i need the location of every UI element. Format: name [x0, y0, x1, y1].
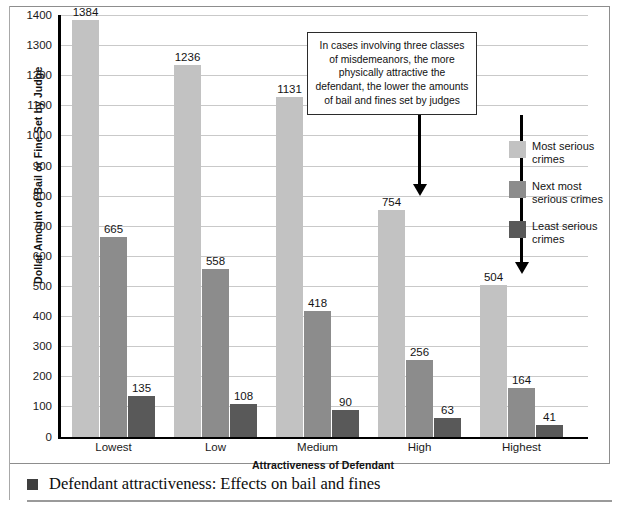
y-axis-tick-label: 700: [33, 220, 52, 232]
legend-label: Next most serious crimes: [532, 180, 605, 207]
gridline: [58, 135, 588, 136]
bar-value-label: 256: [410, 346, 429, 358]
bar: 1384: [72, 20, 99, 437]
y-axis-tick-label: 500: [33, 280, 52, 292]
bar-value-label: 90: [339, 396, 352, 408]
bar: 418: [304, 311, 331, 437]
bar: 1131: [276, 97, 303, 438]
y-axis-tick-label: 1200: [26, 69, 52, 81]
legend-swatch: [509, 141, 526, 158]
y-axis-tick-label: 200: [33, 370, 52, 382]
legend-item: Next most serious crimes: [509, 180, 605, 207]
x-axis-category-label: Medium: [297, 441, 338, 453]
bar: 1236: [174, 65, 201, 437]
y-axis-tick-label: 600: [33, 250, 52, 262]
bar-value-label: 1131: [277, 83, 302, 95]
bar: 665: [100, 237, 127, 437]
bar: 754: [378, 210, 405, 437]
bar-value-label: 665: [104, 223, 123, 235]
legend-swatch: [509, 221, 526, 238]
bar-value-label: 504: [484, 271, 503, 283]
annotation-arrow: [411, 115, 429, 196]
figure-container: Dollar Amount of Bail or Fine Set by Jud…: [0, 0, 621, 513]
chart-legend: Most serious crimesNext most serious cri…: [509, 140, 605, 259]
bar-value-label: 135: [132, 382, 151, 394]
x-axis-category-label: Lowest: [95, 441, 131, 453]
y-axis-tick-label: 100: [33, 400, 52, 412]
arrow-head: [515, 262, 529, 274]
x-axis-category-label: High: [408, 441, 432, 453]
arrow-shaft: [418, 115, 421, 185]
bar: 90: [332, 410, 359, 437]
annotation-callout-box: In cases involving three classes of misd…: [307, 32, 477, 115]
y-axis-line: [58, 15, 61, 439]
gridline: [58, 286, 588, 287]
caption-bullet-icon: [27, 479, 38, 490]
bar-value-label: 418: [308, 297, 327, 309]
legend-item: Least serious crimes: [509, 220, 605, 247]
bar-value-label: 164: [512, 374, 531, 386]
legend-item: Most serious crimes: [509, 140, 605, 167]
bar-value-label: 1384: [73, 6, 99, 18]
y-axis-tick-label: 400: [33, 310, 52, 322]
y-axis-tick-label: 1300: [26, 39, 52, 51]
legend-label: Least serious crimes: [532, 220, 605, 247]
y-axis-tick-label: 1400: [26, 9, 52, 21]
x-axis-line: [58, 437, 588, 440]
x-axis-category-label: Highest: [502, 441, 541, 453]
figure-caption: Defendant attractiveness: Effects on bai…: [27, 474, 380, 494]
arrow-head: [413, 184, 427, 196]
page-left-rule: [9, 6, 10, 500]
bar-value-label: 108: [234, 390, 253, 402]
bar: 41: [536, 425, 563, 437]
bar: 504: [480, 285, 507, 437]
bar-value-label: 63: [441, 404, 454, 416]
y-axis-tick-label: 300: [33, 340, 52, 352]
caption-rule: [27, 500, 612, 502]
bar-value-label: 558: [206, 255, 225, 267]
y-axis-tick-label: 1000: [26, 129, 52, 141]
gridline: [58, 15, 588, 16]
y-axis-tick-label: 0: [46, 431, 52, 443]
bar-value-label: 41: [543, 411, 556, 423]
x-axis-category-label: Low: [205, 441, 226, 453]
legend-swatch: [509, 181, 526, 198]
bar: 135: [128, 396, 155, 437]
y-axis-tick-label: 900: [33, 160, 52, 172]
bar: 108: [230, 404, 257, 437]
bar-value-label: 1236: [175, 51, 201, 63]
bar: 164: [508, 388, 535, 437]
bar-value-label: 754: [382, 196, 401, 208]
caption-text: Defendant attractiveness: Effects on bai…: [49, 474, 380, 494]
y-axis-tick-label: 800: [33, 190, 52, 202]
y-axis-tick-label: 1100: [27, 99, 52, 111]
bar: 256: [406, 360, 433, 437]
x-axis-title: Attractiveness of Defendant: [58, 459, 588, 471]
legend-label: Most serious crimes: [532, 140, 605, 167]
bar: 558: [202, 269, 229, 437]
bar: 63: [434, 418, 461, 437]
